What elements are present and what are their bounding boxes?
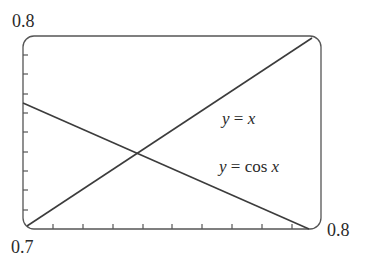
y-axis-top-label: 0.8 [12, 11, 35, 31]
label-y-equals-x: y = x [220, 109, 256, 128]
line-y-equals-x [27, 38, 312, 226]
x-axis-ticks [53, 224, 292, 229]
label-y-equals-cos-x: y = cos x [217, 157, 280, 176]
y-axis-ticks [23, 55, 28, 210]
x-axis-right-label: 0.8 [327, 220, 350, 240]
chart: 0.8 0.7 0.8 y = x y = cos x [0, 0, 366, 277]
origin-label: 0.7 [11, 237, 34, 257]
